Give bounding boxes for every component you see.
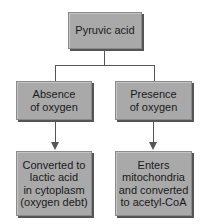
arrow-right-shaft xyxy=(153,121,154,143)
absence-of-oxygen-label: Absence of oxygen xyxy=(30,88,78,113)
arrow-left-shaft xyxy=(55,121,56,143)
connector-horizontal xyxy=(55,65,155,66)
connector-left-drop xyxy=(55,65,56,81)
pyruvic-acid-label: Pyruvic acid xyxy=(75,24,134,37)
pyruvic-acid-node: Pyruvic acid xyxy=(68,12,142,49)
acetyl-coa-outcome-label: Enters mitochondria and converted to ace… xyxy=(119,159,189,209)
arrow-left-head-icon xyxy=(51,142,59,150)
absence-of-oxygen-node: Absence of oxygen xyxy=(16,81,92,120)
lactic-acid-outcome-node: Converted to lactic acid in cytoplasm (o… xyxy=(16,151,92,216)
pyruvic-acid-flowchart: Pyruvic acid Absence of oxygen Presence … xyxy=(0,0,206,224)
connector-right-drop xyxy=(154,65,155,81)
connector-root-stem xyxy=(104,50,105,66)
lactic-acid-outcome-label: Converted to lactic acid in cytoplasm (o… xyxy=(20,159,87,209)
acetyl-coa-outcome-node: Enters mitochondria and converted to ace… xyxy=(115,151,192,216)
arrow-right-head-icon xyxy=(149,142,157,150)
presence-of-oxygen-node: Presence of oxygen xyxy=(115,81,192,120)
presence-of-oxygen-label: Presence of oxygen xyxy=(130,88,178,113)
